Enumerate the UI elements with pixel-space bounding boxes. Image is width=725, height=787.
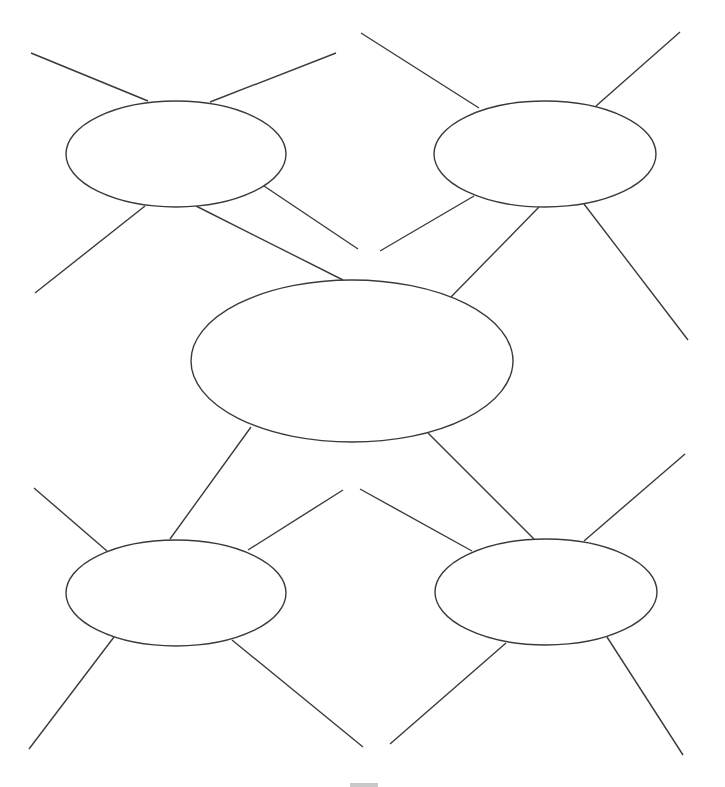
connector-line-bottom-left xyxy=(29,637,114,749)
connector-line-bottom-left xyxy=(170,427,251,539)
connector-line-bottom-right xyxy=(428,433,534,539)
ellipse-top-right[interactable] xyxy=(434,101,656,207)
mind-map-nodes xyxy=(66,101,657,646)
connector-line-top-left xyxy=(264,186,358,249)
connector-line-bottom-left xyxy=(248,490,343,550)
connector-line-top-right xyxy=(361,33,479,108)
connector-line-top-left xyxy=(196,206,343,280)
ellipse-bottom-left[interactable] xyxy=(66,540,286,646)
connector-line-bottom-right xyxy=(584,454,685,541)
node-center[interactable] xyxy=(191,280,513,442)
connector-line-top-left xyxy=(35,206,145,293)
connector-line-top-right xyxy=(380,196,474,251)
mind-map-canvas xyxy=(0,0,725,787)
connector-line-top-right xyxy=(596,32,680,106)
page-footer-bar xyxy=(350,783,378,787)
connector-line-top-left xyxy=(31,53,148,101)
ellipse-center[interactable] xyxy=(191,280,513,442)
connector-line-bottom-right xyxy=(360,489,472,551)
connector-line-top-right xyxy=(451,207,539,297)
node-bottom-right[interactable] xyxy=(435,539,657,645)
connector-line-bottom-right xyxy=(607,637,683,755)
connector-line-bottom-right xyxy=(390,643,506,744)
ellipse-bottom-right[interactable] xyxy=(435,539,657,645)
ellipse-top-left[interactable] xyxy=(66,101,286,207)
node-top-right[interactable] xyxy=(434,101,656,207)
connector-line-top-right xyxy=(584,204,688,340)
connector-line-bottom-left xyxy=(34,488,107,551)
connector-line-top-left xyxy=(210,53,336,102)
node-top-left[interactable] xyxy=(66,101,286,207)
node-bottom-left[interactable] xyxy=(66,540,286,646)
connector-line-bottom-left xyxy=(232,640,363,747)
